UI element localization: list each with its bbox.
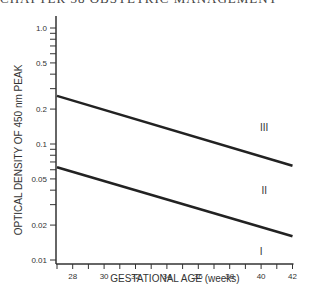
series-lines: [57, 96, 293, 236]
y-tick-label: 0.05: [31, 175, 47, 184]
x-tick-label: 28: [68, 272, 77, 281]
axes: 0.010.020.050.10.20.51.02830323436384042: [31, 16, 297, 281]
y-tick-label: 0.01: [31, 256, 47, 265]
x-axis-title: GESTATIONAL AGE (weeks): [110, 273, 239, 284]
x-tick-label: 42: [288, 272, 297, 281]
series-line: [57, 167, 293, 236]
x-tick-label: 40: [257, 272, 266, 281]
zone-label: III: [260, 122, 268, 133]
y-tick-label: 0.2: [36, 105, 48, 114]
chart: 0.010.020.050.10.20.51.02830323436384042…: [0, 0, 312, 307]
zone-label: II: [261, 185, 267, 196]
series-line: [57, 96, 293, 166]
y-tick-label: 0.02: [31, 221, 47, 230]
y-tick-label: 0.5: [36, 59, 48, 68]
zone-labels: IIIIII: [260, 122, 269, 257]
zone-label: I: [260, 246, 263, 257]
y-tick-label: 0.1: [36, 140, 48, 149]
y-axis-title: OPTICAL DENSITY OF 450 nm PEAK: [13, 64, 24, 235]
x-tick-label: 30: [100, 272, 109, 281]
y-tick-label: 1.0: [36, 24, 48, 33]
